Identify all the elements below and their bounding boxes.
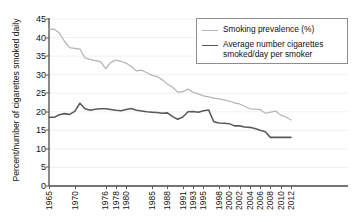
legend-item-prevalence: Smoking prevalence (%) — [202, 25, 314, 35]
chart-figure: Percent/number of cigarettes smoked dail… — [0, 0, 356, 222]
legend-item-cigarettes: Average number cigarettes smoked/day per… — [202, 40, 323, 59]
legend-swatch-prevalence — [202, 30, 218, 31]
chart-legend: Smoking prevalence (%) Average number ci… — [196, 18, 348, 64]
legend-swatch-cigarettes — [202, 45, 218, 47]
series-line-cigarettes — [49, 103, 291, 137]
legend-label-cigarettes: Average number cigarettes smoked/day per… — [223, 40, 323, 59]
legend-label-prevalence: Smoking prevalence (%) — [223, 25, 314, 35]
